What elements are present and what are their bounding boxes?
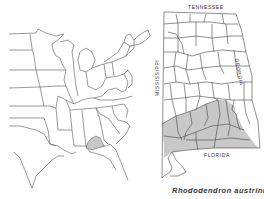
range-map-figure: TENNESSEE GEORGIA MISSISSIPPI FLORIDA Rh… (0, 0, 264, 199)
state-range-shading (162, 100, 258, 158)
label-florida: FLORIDA (204, 152, 230, 158)
label-tennessee: TENNESSEE (188, 4, 224, 10)
species-caption: Rhododendron austrinum (172, 186, 264, 195)
alabama-county-map (0, 0, 264, 199)
label-mississippi: MISSISSIPPI (154, 60, 160, 96)
